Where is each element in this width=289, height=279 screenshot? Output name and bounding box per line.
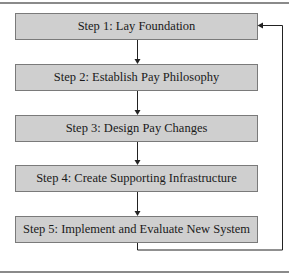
connector-arrows [0,0,289,279]
